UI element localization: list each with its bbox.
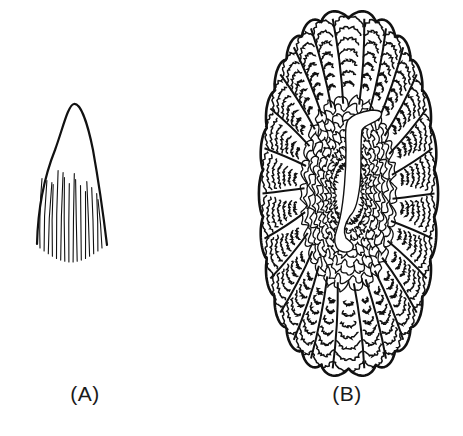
panel-b-lobed-section [259, 11, 438, 375]
striation-line [61, 173, 63, 261]
striation-line [92, 188, 94, 254]
panel-label-b: (B) [332, 382, 362, 406]
striation-line [87, 182, 90, 257]
panel-label-a: (A) [70, 382, 100, 406]
striation-line [48, 183, 52, 254]
figure-canvas [0, 0, 463, 436]
striation-line [76, 180, 78, 262]
striation-line [64, 178, 65, 262]
panel-a-cone-illustration [37, 104, 107, 262]
striation-line [44, 181, 47, 251]
striation-line [73, 174, 74, 262]
striation-line [97, 194, 98, 251]
striation-line [81, 186, 82, 261]
cone-striations [40, 171, 102, 262]
striation-line [52, 185, 53, 257]
striation-line [40, 179, 42, 249]
striation-line [56, 171, 58, 259]
striation-line [69, 184, 70, 262]
cone-outline [37, 104, 107, 245]
